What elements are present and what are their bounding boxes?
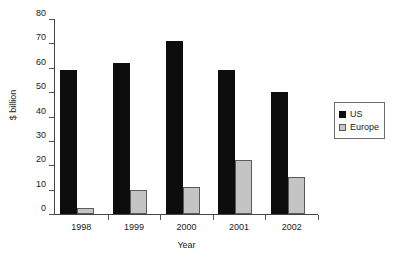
x-axis-tick-mark: [160, 215, 161, 220]
y-axis-tick-mark: [49, 165, 54, 166]
legend-label-europe: Europe: [350, 123, 379, 132]
y-axis-tick-mark: [49, 141, 54, 142]
bar-group: [271, 19, 305, 214]
y-axis-tick-label: 10: [22, 180, 46, 189]
legend-swatch-europe-icon: [339, 124, 346, 131]
bar-europe-1998[interactable]: [77, 208, 94, 214]
y-axis-tick-label: 40: [22, 107, 46, 116]
y-axis-tick-mark: [49, 117, 54, 118]
y-axis-tick-label: 60: [22, 58, 46, 67]
legend-item-us[interactable]: US: [339, 108, 379, 120]
bar-chart: $ billion 01020304050607080 Year US Euro…: [0, 0, 414, 264]
y-axis-tick-label: 0: [22, 204, 46, 213]
x-axis-tick-mark: [108, 215, 109, 220]
bar-us-2001[interactable]: [218, 70, 235, 214]
x-axis-tick-mark: [213, 215, 214, 220]
bar-europe-2002[interactable]: [288, 177, 305, 214]
legend-swatch-us-icon: [339, 111, 346, 118]
x-axis-tick-mark: [318, 215, 319, 220]
y-axis-tick-mark: [49, 19, 54, 20]
bar-group: [113, 19, 147, 214]
y-axis-tick-mark: [49, 43, 54, 44]
y-axis-tick-label: 20: [22, 155, 46, 164]
y-axis-tick-mark: [49, 92, 54, 93]
x-axis-tick-label: 1999: [104, 222, 164, 232]
plot-area: [55, 19, 318, 214]
bar-group: [166, 19, 200, 214]
bar-us-2000[interactable]: [166, 41, 183, 214]
y-axis-tick-label: 80: [22, 9, 46, 18]
y-axis-tick-labels: 01020304050607080: [22, 13, 46, 215]
legend-item-europe[interactable]: Europe: [339, 121, 379, 133]
bar-europe-2000[interactable]: [183, 187, 200, 214]
x-axis-line: [54, 214, 318, 215]
y-axis-tick-mark: [49, 214, 54, 215]
bar-us-2002[interactable]: [271, 92, 288, 214]
bar-europe-1999[interactable]: [130, 190, 147, 214]
bar-group: [218, 19, 252, 214]
y-axis-title: $ billion: [8, 65, 18, 145]
bar-us-1998[interactable]: [60, 70, 77, 214]
x-axis-tick-label: 2001: [209, 222, 269, 232]
legend-label-us: US: [350, 110, 363, 119]
x-axis-tick-label: 1998: [51, 222, 111, 232]
y-axis-tick-label: 70: [22, 33, 46, 42]
x-axis-tick-label: 2002: [262, 222, 322, 232]
y-axis-tick-label: 50: [22, 82, 46, 91]
bar-us-1999[interactable]: [113, 63, 130, 214]
x-axis-title: Year: [55, 240, 318, 250]
y-axis-tick-mark: [49, 190, 54, 191]
y-axis-tick-label: 30: [22, 131, 46, 140]
bar-group: [60, 19, 94, 214]
x-axis-tick-label: 2000: [157, 222, 217, 232]
chart-legend: US Europe: [334, 102, 385, 139]
y-axis-tick-mark: [49, 68, 54, 69]
x-axis-tick-mark: [265, 215, 266, 220]
bar-europe-2001[interactable]: [235, 160, 252, 214]
